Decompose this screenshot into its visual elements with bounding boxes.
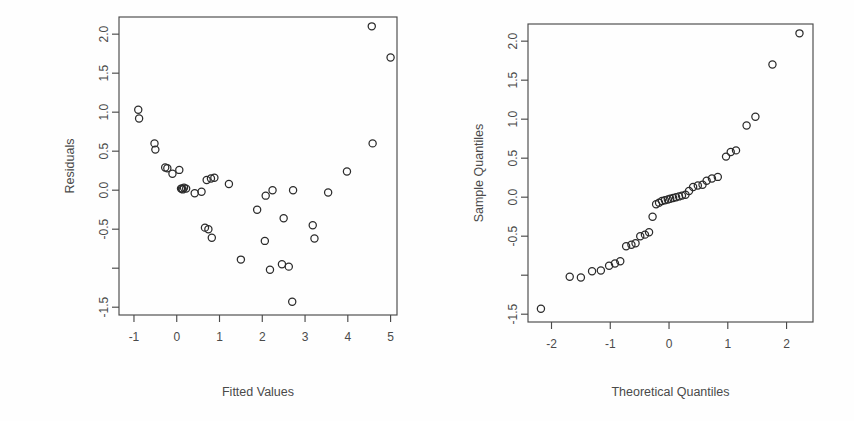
x-tick-label: 2 [259, 330, 266, 344]
data-point [191, 190, 198, 197]
data-point [135, 106, 142, 113]
y-axis-title: Sample Quantiles [472, 124, 486, 223]
data-point [343, 168, 350, 175]
data-point [311, 235, 318, 242]
y-tick-label: 0.5 [506, 150, 520, 167]
y-tick-label: 1.5 [97, 65, 111, 82]
data-points [537, 30, 803, 313]
data-point [289, 298, 296, 305]
y-tick-label: -1.5 [97, 297, 111, 318]
y-tick-label: -0.5 [97, 219, 111, 240]
data-point [169, 170, 176, 177]
x-tick-label: -2 [546, 337, 557, 351]
y-tick-label: 1.0 [97, 104, 111, 121]
data-point [796, 30, 803, 37]
y-tick-label: -1.5 [506, 304, 520, 325]
data-point [280, 215, 287, 222]
x-tick-label: 1 [216, 330, 223, 344]
residuals-vs-fitted-plot: -1012345-1.5-0.50.00.51.01.52.0Fitted Va… [0, 0, 427, 421]
x-tick-label: -1 [605, 337, 616, 351]
y-tick-label: 0.0 [506, 189, 520, 206]
data-point [752, 113, 759, 120]
data-point [577, 274, 584, 281]
data-point [278, 261, 285, 268]
x-tick-label: 0 [173, 330, 180, 344]
data-point [637, 233, 644, 240]
data-point [285, 263, 292, 270]
normal-qq-panel: -2-1012-1.5-0.50.00.51.01.52.0Theoretica… [427, 0, 854, 421]
data-point [743, 122, 750, 129]
data-point [266, 266, 273, 273]
y-tick-label: 2.0 [97, 25, 111, 42]
x-axis-title: Theoretical Quantiles [611, 385, 729, 399]
x-tick-label: 3 [302, 330, 309, 344]
data-point [649, 213, 656, 220]
y-axis-title: Residuals [63, 139, 77, 194]
y-tick-label: -0.5 [506, 226, 520, 247]
plot-frame [528, 24, 813, 322]
data-point [208, 234, 215, 241]
y-tick-label: 0.0 [97, 182, 111, 199]
data-point [309, 222, 316, 229]
data-point [203, 176, 210, 183]
data-point [632, 240, 639, 247]
y-tick-label: 1.0 [506, 111, 520, 128]
data-point [387, 54, 394, 61]
data-point [136, 115, 143, 122]
data-point [769, 61, 776, 68]
data-point [368, 23, 375, 30]
data-point [537, 305, 544, 312]
data-point [597, 267, 604, 274]
data-point [369, 140, 376, 147]
data-point [198, 188, 205, 195]
y-tick-label: 1.5 [506, 72, 520, 89]
x-axis-title: Fitted Values [222, 385, 294, 399]
data-point [588, 268, 595, 275]
data-point [289, 187, 296, 194]
x-tick-label: -1 [129, 330, 140, 344]
data-point [325, 189, 332, 196]
residuals-vs-fitted-panel: -1012345-1.5-0.50.00.51.01.52.0Fitted Va… [0, 0, 427, 421]
plot-frame [119, 17, 397, 315]
x-tick-label: 0 [666, 337, 673, 351]
figure-root: -1012345-1.5-0.50.00.51.01.52.0Fitted Va… [0, 0, 854, 421]
data-point [176, 166, 183, 173]
x-tick-label: 4 [344, 330, 351, 344]
y-tick-label: 0.5 [97, 143, 111, 160]
x-tick-label: 2 [783, 337, 790, 351]
data-point [225, 180, 232, 187]
data-point [262, 192, 269, 199]
data-point [237, 256, 244, 263]
data-points [135, 23, 395, 306]
data-point [269, 187, 276, 194]
normal-qq-plot: -2-1012-1.5-0.50.00.51.01.52.0Theoretica… [427, 0, 854, 421]
data-point [261, 237, 268, 244]
data-point [566, 273, 573, 280]
x-tick-label: 5 [387, 330, 394, 344]
x-tick-label: 1 [724, 337, 731, 351]
data-point [254, 206, 261, 213]
y-tick-label: 2.0 [506, 32, 520, 49]
